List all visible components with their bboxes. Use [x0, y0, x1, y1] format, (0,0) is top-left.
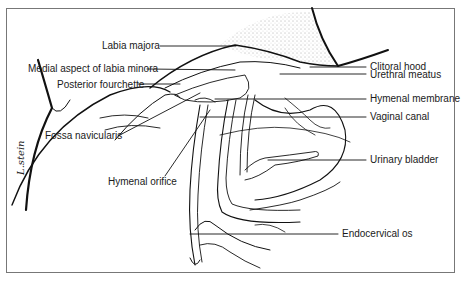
cervix-2	[200, 244, 260, 268]
urethra-2	[247, 95, 255, 172]
uterus-line	[250, 182, 340, 210]
fossa-curve	[100, 115, 148, 118]
label-hymenal-orifice: Hymenal orifice	[108, 176, 177, 187]
lower-left-contour	[52, 100, 70, 112]
label-endocervical-os: Endocervical os	[342, 228, 413, 239]
buttock-contour	[12, 87, 170, 205]
perineum-curve	[115, 94, 180, 140]
labia-minora-outline	[165, 62, 300, 88]
label-urinary-bladder: Urinary bladder	[370, 154, 438, 165]
anatomy-drawing	[0, 0, 463, 289]
label-urethral-meatus: Urethral meatus	[370, 69, 441, 80]
anterior-vaginal-wall	[218, 100, 301, 223]
cervix	[195, 221, 270, 250]
mons-stipple	[220, 12, 335, 66]
label-labia-majora: Labia majora	[102, 40, 160, 51]
label-fossa-navicularis: Fossa navicularis	[45, 130, 122, 141]
leader-lines	[118, 46, 366, 234]
label-posterior-fourchette: Posterior fourchette	[57, 79, 144, 90]
posterior-wall-inner	[198, 105, 209, 262]
artist-signature: L.stein	[15, 140, 26, 175]
label-medial-aspect-labia-minora: Medial aspect of labia minora	[28, 63, 158, 74]
labial-inner-fold	[175, 75, 249, 102]
bladder-lumen	[245, 152, 318, 181]
bladder-wall-line	[220, 127, 350, 142]
label-hymenal-membrane: Hymenal membrane	[370, 93, 460, 104]
fornix-line	[255, 224, 285, 232]
bladder-outline	[255, 100, 346, 200]
label-vaginal-canal: Vaginal canal	[370, 111, 429, 122]
